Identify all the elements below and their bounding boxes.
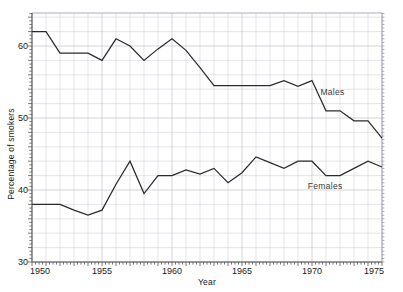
x-axis-label: Year [198, 277, 216, 287]
line-chart: 195019551960196519701975 30405060 MalesF… [0, 0, 403, 292]
y-tick-label: 30 [18, 257, 28, 267]
chart-container: 195019551960196519701975 30405060 MalesF… [0, 0, 403, 292]
x-tick-label: 1950 [30, 266, 50, 276]
series-label-females: Females [308, 181, 343, 191]
y-axis-label: Percentage of smokers [6, 108, 16, 200]
y-tick-label: 50 [18, 113, 28, 123]
x-tick-label: 1960 [162, 266, 182, 276]
x-tick-label: 1970 [302, 266, 322, 276]
y-tick-label: 40 [18, 185, 28, 195]
series-label-males: Males [320, 87, 344, 97]
x-tick-label: 1975 [364, 266, 384, 276]
x-tick-label: 1955 [92, 266, 112, 276]
chart-background [0, 0, 403, 292]
y-tick-label: 60 [18, 41, 28, 51]
x-tick-label: 1965 [232, 266, 252, 276]
